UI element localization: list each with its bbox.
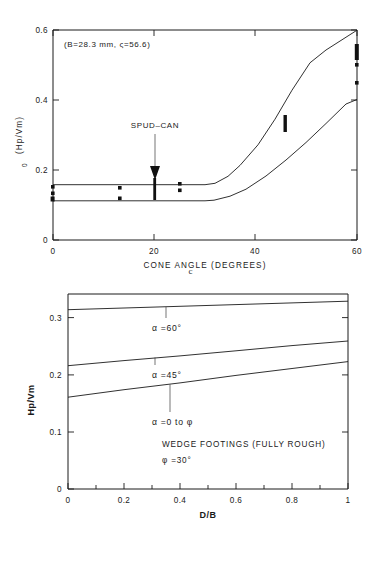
panel-d-curve-labels: α =60° α =45° α =0 to φ [152,307,193,427]
panel-c-xtick-3: 60 [352,247,362,256]
panel-c-spudcan-annotation: SPUD–CAN [131,121,179,200]
panel-c-y-axis-title-main: (Hp/Vm) [15,116,24,154]
panel-c-ytick-1: 0.4 [35,96,48,105]
panel-c-xtick-1: 20 [149,247,159,256]
panel-c-parameters-annotation: (B=28.3 mm, ς=56.6) [64,40,150,49]
panel-d-note-wedge-footings: WEDGE FOOTINGS (FULLY ROUGH) [162,440,326,449]
error-bar [284,115,287,132]
panel-d-curve-alpha-0-phi [68,362,348,398]
data-marker [178,189,182,193]
panel-d-y-axis-title: Hp/Vm [26,384,36,415]
data-marker [355,81,359,85]
panel-c-data-markers [51,63,359,202]
panel-d-xtick-3: 0.6 [230,496,243,505]
panel-c-ytick-3: 0 [43,236,48,245]
panel-c-error-bars [284,44,359,132]
data-marker [118,197,122,201]
panel-d-xtick-0: 0 [66,496,71,505]
panel-d-y-ticks [68,318,348,489]
panel-d-label-alpha-45: α =45° [152,370,182,380]
panel-c-cone-angle-chart: 0.6 0.4 0.2 0 0 20 40 60 CONE ANGLE (DEG… [0,0,381,285]
panel-d-x-ticks [68,483,348,489]
panel-d-ytick-3: 0 [57,485,62,494]
panel-c-lower-bound-curve [53,100,357,201]
panel-c-letter: c [0,266,381,276]
panel-c-ytick-0: 0.6 [35,26,48,35]
panel-d-label-alpha-60: α =60° [152,323,182,333]
panel-c-plot: 0.6 0.4 0.2 0 0 20 40 60 CONE ANGLE (DEG… [0,0,381,285]
panel-d-note-phi: φ =30° [162,456,192,465]
panel-d-xtick-4: 0.8 [286,496,299,505]
data-marker [118,186,122,190]
panel-d-x-axis-title: D/B [200,510,217,520]
data-marker [51,197,55,202]
panel-c-upper-bound-curve [53,30,357,185]
panel-c-xtick-0: 0 [51,247,56,256]
panel-d-xtick-2: 0.4 [174,496,187,505]
panel-c-y-axis-title-subscript: 0 [21,163,28,167]
panel-c-xtick-2: 40 [250,247,260,256]
panel-d-ytick-0: 0.3 [49,314,62,323]
spudcan-label: SPUD–CAN [131,121,179,130]
panel-d-xtick-5: 1 [346,496,351,505]
panel-d-wedge-footings-chart: 0.3 0.2 0.1 0 0 0.2 0.4 0.6 0.8 1 D/B Hp… [0,280,381,565]
panel-d-ytick-2: 0.1 [49,428,62,437]
spudcan-arrow-stem [153,178,156,200]
error-bar [355,44,359,60]
panel-d-xtick-1: 0.2 [118,496,131,505]
data-marker [178,182,182,186]
data-marker [51,192,55,196]
data-marker [355,63,359,67]
figure-container: 0.6 0.4 0.2 0 0 20 40 60 CONE ANGLE (DEG… [0,0,381,565]
spudcan-arrow-head [150,166,160,180]
panel-d-ytick-1: 0.2 [49,371,62,380]
panel-c-ytick-2: 0.2 [35,166,48,175]
panel-c-y-axis-title: (Hp/Vm) 0 [15,116,28,167]
panel-d-plot: 0.3 0.2 0.1 0 0 0.2 0.4 0.6 0.8 1 D/B Hp… [0,280,381,565]
data-marker [51,185,55,189]
panel-d-curve-alpha-45 [68,341,348,366]
panel-d-curve-alpha-60 [68,301,348,310]
panel-d-label-alpha-0-phi: α =0 to φ [152,417,193,427]
